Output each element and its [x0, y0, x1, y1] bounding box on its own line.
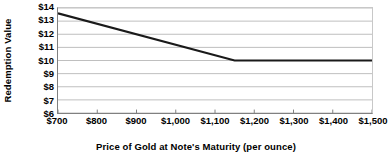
data-line-0	[58, 13, 372, 60]
y-tick-label: $12	[38, 29, 54, 39]
y-axis-title: Redemption Value	[0, 0, 16, 120]
y-tick-label: $14	[38, 2, 54, 12]
x-tick-label: $900	[125, 116, 146, 126]
y-tick-label: $13	[38, 16, 54, 26]
x-axis-title: Price of Gold at Note's Maturity (per ou…	[0, 141, 392, 152]
x-tick-label: $1,100	[200, 116, 229, 126]
x-tick-label: $1,000	[161, 116, 190, 126]
x-tick-label: $1,300	[279, 116, 308, 126]
y-tick-label: $11	[39, 42, 54, 52]
plot-canvas	[58, 8, 372, 113]
redemption-value-chart: Redemption Value $14$13$12$11$10$9$8$7$6…	[0, 0, 392, 161]
x-axis-tick-labels: $700$800$900$1,000$1,100$1,200$1,300$1,4…	[57, 116, 373, 130]
y-tick-label: $10	[38, 56, 54, 66]
plot-area	[57, 7, 373, 114]
x-tick-label: $1,500	[358, 116, 387, 126]
x-tick-label: $1,400	[319, 116, 348, 126]
data-series-group	[58, 13, 372, 60]
y-axis-title-text: Redemption Value	[3, 18, 14, 102]
x-axis-title-text: Price of Gold at Note's Maturity (per ou…	[96, 141, 296, 152]
y-axis-tick-labels: $14$13$12$11$10$9$8$7$6	[16, 7, 56, 114]
x-tick-label: $700	[46, 116, 67, 126]
x-axis-tick-marks	[58, 110, 372, 113]
x-tick-label: $1,200	[240, 116, 269, 126]
y-tick-label: $8	[43, 83, 54, 93]
y-tick-label: $9	[43, 69, 54, 79]
y-tick-label: $7	[43, 96, 54, 106]
x-tick-label: $800	[86, 116, 107, 126]
